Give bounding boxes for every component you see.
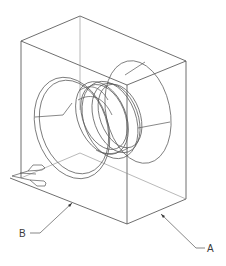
direction-arrows (12, 165, 46, 186)
block-outline (10, 16, 186, 224)
leader-b (30, 203, 72, 233)
label-a: A (207, 243, 214, 254)
bore-rings (66, 74, 151, 167)
diagram-canvas: B A (0, 0, 226, 266)
label-b: B (19, 228, 26, 239)
leader-a (161, 214, 205, 248)
